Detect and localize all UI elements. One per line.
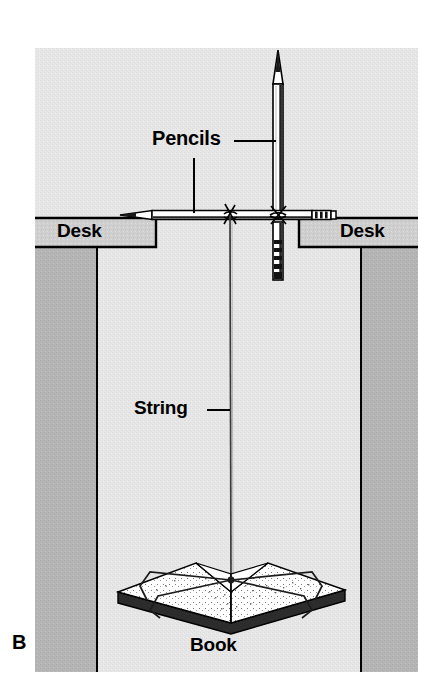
figure-illustration [0,0,445,700]
desk-right-side-panel [361,246,418,672]
label-desk-left: Desk [57,220,102,242]
desk-left-side-panel [35,246,97,672]
pencil-horizontal-eraser [331,211,336,219]
label-book: Book [190,634,237,656]
pencil-horizontal-ferrule-ridges [315,212,328,219]
pencil-vertical [273,50,283,280]
book-string-knot [228,577,235,584]
string-vertical [230,216,231,580]
panel-letter: B [12,631,26,654]
label-string: String [134,397,188,419]
label-pencils: Pencils [152,127,221,150]
figure-root: Pencils Desk Desk String Book B [0,0,445,700]
label-desk-right: Desk [340,220,385,242]
